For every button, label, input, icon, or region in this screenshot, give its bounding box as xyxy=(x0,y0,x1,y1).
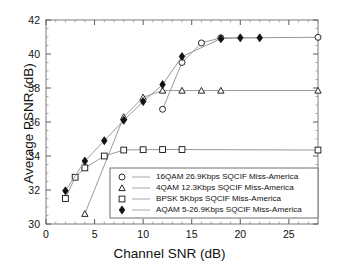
series-0 xyxy=(160,34,321,112)
data-point-marker xyxy=(315,147,321,153)
data-point-marker xyxy=(315,34,321,40)
y-tick-label: 34 xyxy=(22,150,40,162)
x-tick-label: 5 xyxy=(86,228,104,240)
data-point-marker xyxy=(237,34,243,42)
x-tick-label: 10 xyxy=(134,228,152,240)
x-axis-label: Channel SNR (dB) xyxy=(0,246,339,261)
y-tick-label: 30 xyxy=(22,218,40,230)
data-point-marker xyxy=(140,147,146,153)
data-point-marker xyxy=(82,211,88,217)
data-point-marker xyxy=(160,106,166,112)
x-tick-label: 15 xyxy=(183,228,201,240)
data-point-marker xyxy=(82,165,88,171)
y-tick-label: 40 xyxy=(22,48,40,60)
y-tick-label: 38 xyxy=(22,82,40,94)
legend-label-1: 4QAM 12.3Kbps SQCIF Miss-America xyxy=(156,183,294,192)
data-point-marker xyxy=(257,34,263,42)
data-point-marker xyxy=(160,147,166,153)
data-point-marker xyxy=(179,147,185,153)
data-point-marker xyxy=(119,196,125,202)
legend-label-2: BPSK 5Kbps SQCIF Miss-America xyxy=(156,194,281,203)
y-tick-label: 36 xyxy=(22,116,40,128)
data-point-marker xyxy=(101,137,107,145)
legend-label-0: 16QAM 26.9Kbps SQCIF Miss-America xyxy=(156,172,298,181)
x-tick-label: 25 xyxy=(280,228,298,240)
series-line xyxy=(163,37,318,109)
y-tick-label: 32 xyxy=(22,184,40,196)
data-point-marker xyxy=(119,174,125,180)
data-point-marker xyxy=(101,153,107,159)
data-point-marker xyxy=(198,40,204,46)
y-tick-label: 42 xyxy=(22,14,40,26)
legend-label-3: AQAM 5-26.9Kbps SQCIF Miss-America xyxy=(156,205,302,214)
legend-marker-0 xyxy=(119,174,125,180)
data-point-marker xyxy=(121,147,127,153)
chart-figure: Channel SNR (dB) Average PSNR (dB) 05101… xyxy=(0,0,339,272)
legend-marker-2 xyxy=(119,196,125,202)
x-tick-label: 20 xyxy=(231,228,249,240)
data-point-marker xyxy=(63,196,69,202)
